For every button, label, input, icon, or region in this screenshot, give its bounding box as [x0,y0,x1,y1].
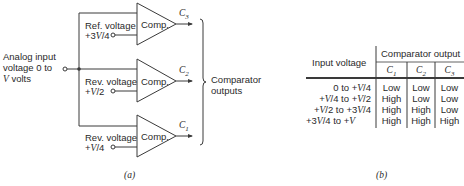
comparator-c2-label: Comp. [141,76,169,87]
outputs-label-line1: Comparator [211,74,261,85]
comparator-c1-label: Comp. [141,131,169,142]
table-cell: High [407,115,435,127]
ref-value-c1: +V/4 [85,142,104,154]
output-c1: C1 [179,120,189,135]
table-cell: High [435,115,464,127]
input-label-line3: V volts [3,73,31,85]
output-c3: C3 [179,8,189,23]
column-header-c3: C3 [435,64,464,80]
input-label-line1: Analog input [3,51,56,62]
caption-b: (b) [376,170,387,181]
ref-value-c3: +3V/4 [85,30,110,42]
column-header-c2: C2 [407,64,435,80]
caption-a: (a) [124,170,135,181]
ref-value-c2: +V/2 [85,86,104,98]
output-c2: C2 [179,65,189,80]
input-label-line2: voltage 0 to [3,62,52,73]
table-cell: High [376,115,407,127]
column-header-c1: C1 [376,64,407,80]
outputs-label-line2: outputs [211,85,242,96]
table-row-header: Input voltage [312,57,366,68]
table-row-input: +3V/4 to +V [306,115,355,127]
table-group-header: Comparator output [381,48,460,59]
comparator-c3-label: Comp. [141,19,169,30]
